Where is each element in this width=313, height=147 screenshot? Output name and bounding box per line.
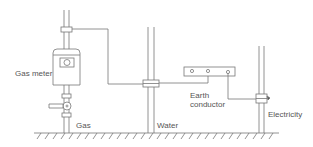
label-water: Water [157, 121, 178, 130]
label-earth-conductor-1: Earth [190, 91, 209, 100]
electricity-pipe [259, 46, 264, 133]
label-earth-conductor-2: conductor [190, 100, 225, 109]
label-electricity: Electricity [268, 110, 302, 119]
label-gas: Gas [76, 121, 91, 130]
bonding-wire-gas [72, 29, 145, 84]
earth-terminal-bar [184, 67, 235, 76]
gas-meter [53, 49, 80, 85]
gas-clamp [61, 27, 72, 32]
ground-line [34, 133, 279, 139]
earth-conductor-wire [228, 73, 256, 99]
gas-valve [49, 102, 71, 110]
label-gas-meter: Gas meter [15, 69, 52, 78]
bonding-diagram: Gas meter Gas Water Earth conductor Elec… [0, 0, 313, 147]
